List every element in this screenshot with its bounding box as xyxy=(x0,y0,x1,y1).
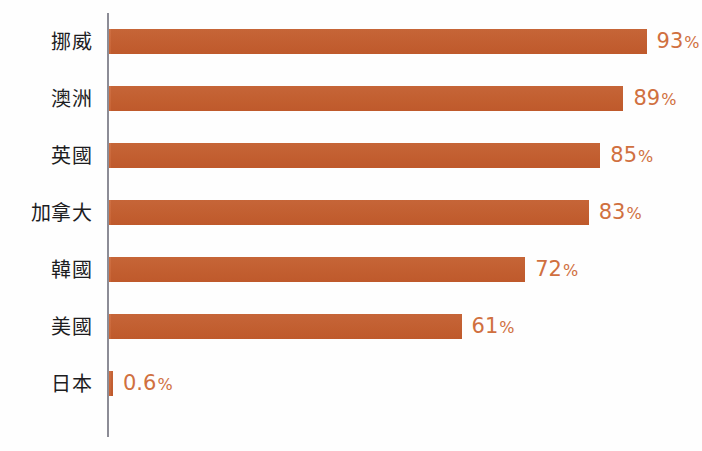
bar-value-number: 61 xyxy=(472,316,499,337)
bar-value-number: 89 xyxy=(633,88,660,109)
bar-row: 加拿大 83% xyxy=(0,184,702,241)
category-label: 挪威 xyxy=(0,13,92,70)
bar-value-label: 61% xyxy=(472,314,515,339)
bar[interactable] xyxy=(109,371,113,396)
category-label: 美國 xyxy=(0,298,92,355)
bar-value-label: 85% xyxy=(610,143,653,168)
bar[interactable] xyxy=(109,200,589,225)
bar-track: 85% xyxy=(109,127,702,184)
bar-track: 89% xyxy=(109,70,702,127)
bar-track: 0.6% xyxy=(109,355,702,412)
bar-chart: 挪威 93% 澳洲 89% 英國 85% 加拿大 83% 韓國 72% xyxy=(0,0,702,451)
category-label: 英國 xyxy=(0,127,92,184)
percent-symbol: % xyxy=(499,320,514,336)
bar-value-number: 0.6 xyxy=(123,373,156,394)
bar-track: 72% xyxy=(109,241,702,298)
bar-track: 61% xyxy=(109,298,702,355)
bar-row: 日本 0.6% xyxy=(0,355,702,412)
bar-value-label: 89% xyxy=(633,86,676,111)
bar[interactable] xyxy=(109,29,647,54)
percent-symbol: % xyxy=(638,149,653,165)
category-label: 加拿大 xyxy=(0,184,92,241)
category-label: 澳洲 xyxy=(0,70,92,127)
bar-value-label: 83% xyxy=(599,200,642,225)
bar-value-number: 85 xyxy=(610,145,637,166)
bar-value-label: 72% xyxy=(535,257,578,282)
bar-value-label: 0.6% xyxy=(123,371,173,396)
bar-track: 93% xyxy=(109,13,702,70)
bar-row: 美國 61% xyxy=(0,298,702,355)
bar-track: 83% xyxy=(109,184,702,241)
percent-symbol: % xyxy=(684,35,699,51)
bar-row: 澳洲 89% xyxy=(0,70,702,127)
bar-row: 英國 85% xyxy=(0,127,702,184)
bar[interactable] xyxy=(109,86,623,111)
percent-symbol: % xyxy=(661,92,676,108)
bar-row: 挪威 93% xyxy=(0,13,702,70)
bar-value-number: 83 xyxy=(599,202,626,223)
bar-value-number: 93 xyxy=(657,31,684,52)
percent-symbol: % xyxy=(626,206,641,222)
percent-symbol: % xyxy=(157,377,172,393)
percent-symbol: % xyxy=(563,263,578,279)
bar-value-label: 93% xyxy=(657,29,700,54)
category-label: 韓國 xyxy=(0,241,92,298)
bar-value-number: 72 xyxy=(535,259,562,280)
bar[interactable] xyxy=(109,143,600,168)
bar-row: 韓國 72% xyxy=(0,241,702,298)
category-label: 日本 xyxy=(0,355,92,412)
bar[interactable] xyxy=(109,314,462,339)
bar[interactable] xyxy=(109,257,525,282)
